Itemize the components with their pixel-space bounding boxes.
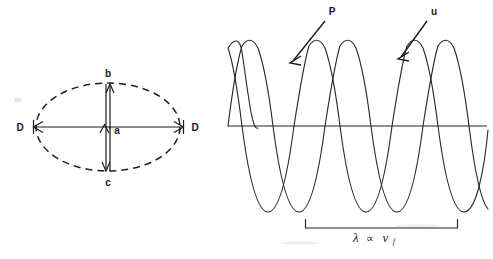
figure-background bbox=[0, 0, 493, 259]
label-d-left: D bbox=[16, 122, 23, 133]
paper-smudge-two bbox=[396, 224, 440, 228]
symbol-nu: ν bbox=[383, 230, 389, 245]
paper-speck bbox=[14, 98, 22, 102]
paper-smudge bbox=[280, 241, 320, 244]
series-label-p: P bbox=[329, 6, 336, 17]
label-d-right: D bbox=[191, 122, 198, 133]
series-label-u: u bbox=[431, 6, 437, 17]
wavelength-formula: λ ∝ ν f bbox=[352, 228, 397, 246]
label-c: c bbox=[105, 177, 111, 188]
scientific-figure: D D b a c P bbox=[0, 0, 493, 259]
symbol-proportional: ∝ bbox=[366, 232, 374, 244]
label-a: a bbox=[114, 125, 120, 136]
symbol-lambda: λ bbox=[352, 230, 359, 245]
label-b: b bbox=[105, 68, 111, 79]
